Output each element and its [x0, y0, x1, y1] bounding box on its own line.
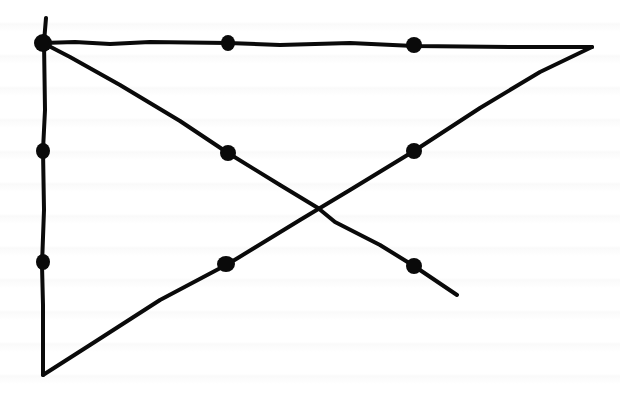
dot-r1c1 — [34, 34, 52, 52]
dot-r2c1 — [36, 143, 50, 159]
line-2-top — [43, 42, 592, 47]
dot-r2c3 — [406, 143, 422, 159]
line-3-return — [43, 47, 592, 375]
line-4-diagonal — [43, 43, 457, 295]
nine-dot-puzzle-diagram — [0, 0, 620, 401]
dot-r1c2 — [221, 35, 235, 51]
dot-r3c1 — [36, 254, 50, 270]
connecting-lines — [42, 18, 592, 375]
dot-r1c3 — [406, 37, 422, 53]
dot-r3c3 — [406, 258, 422, 274]
dot-r2c2 — [220, 145, 236, 161]
line-1-vertical — [42, 18, 46, 375]
dot-r3c2 — [217, 256, 235, 272]
